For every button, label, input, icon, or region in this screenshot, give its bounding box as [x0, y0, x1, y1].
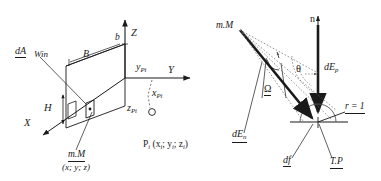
label-mM-coords-left: (x; y; z): [62, 163, 90, 172]
label-y-pi-subscript: Pi: [140, 66, 146, 73]
omega-tick-b: [277, 52, 279, 58]
label-point-pi: Pi (xi; yi; zi): [143, 140, 188, 150]
label-y-pi: yPi: [136, 62, 147, 74]
label-x-pi: xPi: [152, 88, 163, 100]
label-x-pi-subscript: Pi: [156, 92, 162, 99]
label-dEp-subscript: p: [335, 66, 338, 73]
omega-angle-arc: [268, 62, 279, 70]
axis-label-x: X: [24, 118, 30, 129]
dEn-leader: [244, 62, 262, 133]
label-B: B: [83, 49, 89, 59]
axis-label-y: Y: [168, 65, 174, 76]
label-dEp: dEp: [324, 62, 339, 74]
label-df: df: [283, 155, 291, 167]
label-omega: Ω: [264, 84, 271, 96]
point-marker-circle: [149, 109, 156, 116]
label-mM-right: m.M: [216, 21, 233, 31]
label-dEn: dEn: [232, 129, 247, 143]
label-z-pi-subscript: Pi: [131, 107, 137, 114]
label-r-equals-1: r = 1: [345, 102, 365, 114]
df-leader: [292, 124, 332, 158]
paren-close: ): [185, 139, 188, 149]
label-H: H: [44, 103, 52, 114]
label-b: b: [115, 33, 120, 43]
figure-canvas: dA Win B b H Z Y X yPi xPi zPi Pi (xi; y…: [0, 0, 381, 181]
label-TP: T.P: [330, 157, 343, 169]
window-plane: [66, 44, 125, 128]
label-mM-left: m.M: [68, 150, 85, 162]
label-win: Win: [34, 50, 48, 59]
right-panel-group: [240, 16, 348, 158]
label-n: n: [310, 14, 315, 24]
axis-x: [43, 78, 125, 135]
label-theta: θ: [296, 64, 301, 75]
radius-line: [318, 112, 345, 122]
label-dA: dA: [15, 46, 26, 58]
diagram-vector-layer: [0, 0, 381, 181]
solid-angle-cone: [240, 30, 336, 121]
axis-label-z: Z: [131, 28, 137, 39]
dimension-b-line: [70, 44, 120, 62]
mM-leader: [76, 112, 92, 150]
label-z-pi: zPi: [127, 103, 137, 115]
label-dEn-subscript: n: [243, 133, 246, 140]
